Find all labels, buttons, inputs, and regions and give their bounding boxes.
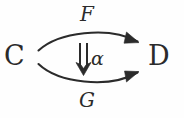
natural-transformation-label: α <box>91 49 104 68</box>
natural-transformation-double-arrow <box>76 43 91 76</box>
target-category-label: D <box>148 42 170 69</box>
double-arrow-head <box>76 63 91 76</box>
source-category-label: C <box>4 42 25 69</box>
commutative-diagram: C D F G α <box>0 0 184 118</box>
functor-G-arrowhead <box>125 71 140 82</box>
functor-G-label: G <box>79 90 95 110</box>
functor-F-label: F <box>80 4 94 24</box>
functor-F-arrow <box>39 32 140 51</box>
functor-F-arrowhead <box>124 32 139 43</box>
